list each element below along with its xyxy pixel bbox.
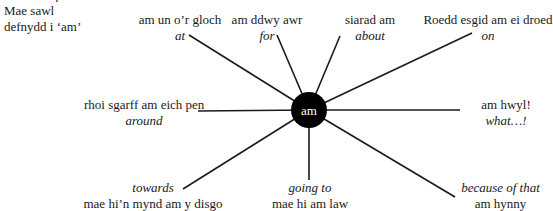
welsh-phrase: mae hi am law (262, 196, 358, 211)
welsh-phrase: am hwyl! (458, 97, 553, 113)
welsh-phrase: siarad am (330, 12, 410, 28)
welsh-phrase: am hynny (448, 196, 553, 211)
spoke-line-on (309, 33, 472, 110)
english-gloss: towards (78, 180, 228, 196)
english-gloss: on (418, 28, 553, 44)
welsh-phrase: Roedd esgid am ei droed (418, 12, 553, 28)
spoke-label-towards: towards mae hi’n mynd am y disgo (78, 180, 228, 211)
english-gloss: because of that (448, 180, 553, 196)
english-gloss: going to (262, 180, 358, 196)
spoke-label-about: siarad am about (330, 12, 410, 44)
welsh-phrase: am un o’r gloch (130, 12, 230, 28)
hub-label: am (301, 103, 317, 118)
spoke-label-around: rhoi sgarff am eich pen around (84, 97, 204, 129)
spoke-label-for: am ddwy awr for (222, 12, 312, 44)
english-gloss: around (84, 113, 204, 129)
welsh-phrase: mae hi’n mynd am y disgo (78, 196, 228, 211)
spoke-label-what: am hwyl! what…! (458, 97, 553, 129)
welsh-phrase: am ddwy awr (222, 12, 312, 28)
spoke-line-at (189, 35, 309, 110)
english-gloss: at (130, 28, 230, 44)
spoke-label-going-to: going to mae hi am law (262, 180, 358, 211)
english-gloss: for (222, 28, 312, 44)
welsh-phrase: rhoi sgarff am eich pen (84, 97, 204, 113)
english-gloss: about (330, 28, 410, 44)
spoke-label-at: am un o’r gloch at (130, 12, 230, 44)
spoke-label-because-of-that: because of that am hynny (448, 180, 553, 211)
spoke-label-on: Roedd esgid am ei droed on (418, 12, 553, 44)
english-gloss: what…! (458, 113, 553, 129)
